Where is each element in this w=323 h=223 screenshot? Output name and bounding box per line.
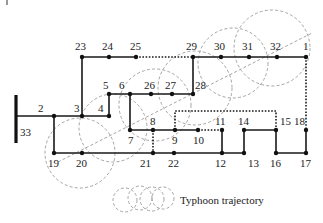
- bus-label-24: 24: [102, 40, 114, 52]
- bus-label-28: 28: [195, 79, 207, 91]
- bus-node-4: [107, 114, 111, 118]
- bus-node-16: [274, 151, 278, 155]
- bus-label-5: 5: [103, 79, 109, 91]
- typhoon-circle-2: [79, 94, 147, 162]
- bus-node-28: [191, 92, 195, 96]
- bus-label-18: 18: [294, 115, 306, 127]
- bus-node-11: [220, 128, 224, 132]
- bus-label-32: 32: [270, 40, 281, 52]
- bus-label-4: 4: [98, 102, 104, 114]
- bus-label-27: 27: [165, 79, 177, 91]
- bus-node-5: [107, 92, 111, 96]
- bus-label-30: 30: [214, 40, 226, 52]
- network-lines: [16, 57, 306, 153]
- typhoon-circle-5: [198, 28, 268, 98]
- bus-label-29: 29: [186, 40, 198, 52]
- bus-label-20: 20: [76, 157, 88, 169]
- bus-label-25: 25: [130, 40, 142, 52]
- bus-node-30: [219, 55, 223, 59]
- bus-label-23: 23: [75, 40, 87, 52]
- bus-node-29: [191, 55, 195, 59]
- bus-node-27: [170, 92, 174, 96]
- bus-node-22: [172, 151, 176, 155]
- bus-label-14: 14: [238, 115, 250, 127]
- bus-nodes: 1234567891011121314151617181920212223242…: [38, 40, 312, 169]
- bus-label-8: 8: [150, 115, 156, 127]
- bus-node-2: [52, 114, 56, 118]
- bus-node-12: [220, 151, 224, 155]
- bus-node-25: [134, 55, 138, 59]
- bus-label-16: 16: [270, 157, 282, 169]
- bus-node-9: [173, 128, 177, 132]
- bus-node-18: [304, 128, 308, 132]
- bus-node-6: [128, 92, 132, 96]
- bus-label-7: 7: [128, 134, 134, 146]
- bus-label-6: 6: [119, 79, 125, 91]
- bus-label-22: 22: [168, 157, 179, 169]
- bus-label-1: 1: [303, 40, 309, 52]
- bus-label-9: 9: [172, 134, 178, 146]
- bus-node-1: [304, 55, 308, 59]
- bus-label-26: 26: [144, 79, 156, 91]
- bus-label-12: 12: [215, 157, 226, 169]
- feeder-line-1: [16, 57, 306, 116]
- bus-label-19: 19: [48, 157, 60, 169]
- bus-label-13: 13: [248, 157, 260, 169]
- bus-label-3: 3: [74, 102, 80, 114]
- bus-node-32: [275, 55, 279, 59]
- legend-circle-1: [113, 188, 137, 212]
- bus-node-26: [149, 92, 153, 96]
- bus-node-3: [80, 114, 84, 118]
- bus-label-31: 31: [242, 40, 253, 52]
- legend: Typhoon trajectory: [113, 186, 264, 212]
- bus-label-11: 11: [215, 115, 226, 127]
- legend-circle-4: [152, 187, 174, 209]
- bus-label-21: 21: [140, 157, 151, 169]
- tie-switch-lines: [136, 57, 306, 153]
- bus-node-10: [196, 128, 200, 132]
- bus-node-8: [151, 128, 155, 132]
- bus-node-19: [52, 151, 56, 155]
- bus-label-10: 10: [193, 134, 205, 146]
- bus-label-2: 2: [38, 102, 44, 114]
- bus-node-17: [304, 151, 308, 155]
- bus-node-21: [151, 151, 155, 155]
- source-bus-label: 33: [20, 126, 32, 138]
- bus-node-14: [242, 128, 246, 132]
- bus-node-31: [247, 55, 251, 59]
- bus-node-13: [242, 151, 246, 155]
- typhoon-legend-icon: [113, 186, 174, 212]
- bus-node-23: [80, 55, 84, 59]
- feeder-line-5: [222, 130, 306, 153]
- bus-node-15: [274, 128, 278, 132]
- bus-label-15: 15: [280, 115, 292, 127]
- distribution-network-diagram: 33 1234567891011121314151617181920212223…: [0, 0, 323, 223]
- bus-node-7: [128, 128, 132, 132]
- legend-label: Typhoon trajectory: [180, 194, 264, 206]
- bus-node-24: [107, 55, 111, 59]
- bus-label-17: 17: [300, 157, 312, 169]
- bus-node-20: [80, 151, 84, 155]
